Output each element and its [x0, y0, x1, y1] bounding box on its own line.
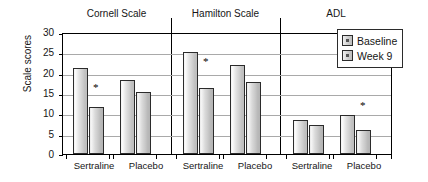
x-axis-tick	[286, 155, 287, 159]
significance-asterisk-1: *	[93, 82, 99, 93]
y-tick-label: 10	[14, 109, 54, 119]
x-axis-tick	[66, 155, 67, 159]
legend-item-baseline: Baseline	[342, 33, 397, 48]
y-tick-label: 15	[14, 89, 54, 99]
bar-baseline-2	[120, 80, 135, 154]
legend-swatch-icon	[342, 35, 353, 46]
bar-week-9-3	[199, 88, 214, 154]
y-tick-label: 5	[14, 130, 54, 140]
legend-swatch-icon	[342, 50, 353, 61]
bar-baseline-6	[340, 115, 355, 154]
significance-asterisk-3: *	[360, 100, 366, 111]
x-axis-tick	[333, 155, 334, 159]
y-axis-tick-labels: 30 25 20 15 10 5 0	[0, 33, 62, 155]
x-axis-tick	[266, 155, 267, 159]
x-axis-tick	[219, 155, 220, 159]
legend-label: Week 9	[357, 50, 392, 62]
group-title-adl: ADL	[280, 8, 392, 19]
bar-baseline-1	[73, 68, 88, 154]
chart-figure: Cornell Scale Hamilton Scale ADL Scale s…	[0, 0, 428, 182]
x-category-label-4: Placebo	[223, 160, 287, 171]
x-axis-category-labels: Sertraline Placebo Sertraline Placebo Se…	[62, 160, 392, 176]
x-axis-tick	[223, 155, 224, 159]
x-category-label-2: Placebo	[114, 160, 178, 171]
significance-asterisk-2: *	[203, 56, 209, 67]
bar-week-9-6	[356, 130, 371, 154]
y-tick-label: 25	[14, 48, 54, 58]
legend-item-week9: Week 9	[342, 48, 397, 63]
x-axis-tick	[176, 155, 177, 159]
bar-baseline-3	[183, 52, 198, 154]
x-axis-tick	[156, 155, 157, 159]
bar-week-9-1	[89, 107, 104, 154]
bar-baseline-4	[230, 65, 245, 154]
y-tick-label: 30	[14, 28, 54, 38]
x-axis-tick	[376, 155, 377, 159]
x-category-label-6: Placebo	[332, 160, 396, 171]
legend: Baseline Week 9	[337, 29, 403, 68]
bar-week-9-5	[309, 125, 324, 154]
bar-week-9-4	[246, 82, 261, 154]
bar-week-9-2	[136, 92, 151, 154]
x-axis-tick	[391, 155, 392, 159]
bar-baseline-5	[293, 120, 308, 154]
x-axis-tick	[113, 155, 114, 159]
y-tick-label: 20	[14, 69, 54, 79]
group-title-cornell: Cornell Scale	[62, 8, 171, 19]
group-title-hamilton: Hamilton Scale	[171, 8, 280, 19]
y-tick-label: 0	[14, 150, 54, 160]
legend-label: Baseline	[357, 35, 397, 47]
x-axis-tick	[329, 155, 330, 159]
x-axis-tick	[109, 155, 110, 159]
